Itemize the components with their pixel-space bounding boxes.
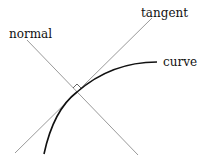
tangent-label: tangent: [141, 6, 188, 20]
normal-line: [27, 40, 138, 155]
tangent-normal-diagram: tangent normal curve: [0, 0, 202, 165]
curve-label: curve: [163, 55, 197, 69]
right-angle-marker: [73, 84, 81, 88]
normal-label: normal: [9, 27, 52, 41]
